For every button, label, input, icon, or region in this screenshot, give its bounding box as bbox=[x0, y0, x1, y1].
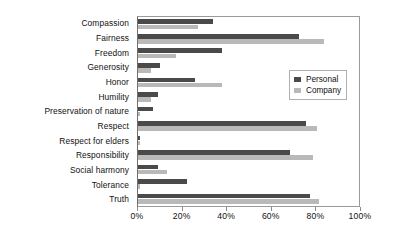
bar-personal bbox=[138, 150, 290, 155]
x-tick-label: 0% bbox=[131, 211, 144, 221]
bar-company bbox=[138, 170, 167, 175]
plot-area bbox=[137, 16, 360, 207]
category-label: Fairness bbox=[0, 31, 133, 46]
category-label: Social harmony bbox=[0, 163, 133, 178]
bar-company bbox=[138, 126, 317, 131]
bar-company bbox=[138, 141, 140, 146]
bar-group bbox=[138, 162, 359, 177]
bar-company bbox=[138, 199, 319, 204]
bar-personal bbox=[138, 63, 160, 68]
bar-group bbox=[138, 32, 359, 47]
bar-company bbox=[138, 97, 151, 102]
category-label: Tolerance bbox=[0, 178, 133, 193]
bar-personal bbox=[138, 19, 213, 24]
category-label: Generosity bbox=[0, 60, 133, 75]
legend-item-personal[interactable]: Personal bbox=[294, 74, 341, 85]
category-label: Honor bbox=[0, 75, 133, 90]
bar-group bbox=[138, 177, 359, 192]
x-tick-label: 40% bbox=[217, 211, 235, 221]
bar-company bbox=[138, 25, 198, 30]
bar-personal bbox=[138, 165, 158, 170]
category-axis: CompassionFairnessFreedomGenerosityHonor… bbox=[0, 16, 133, 207]
bar-company bbox=[138, 112, 140, 117]
bar-group bbox=[138, 46, 359, 61]
bar-company bbox=[138, 39, 324, 44]
bar-chart: CompassionFairnessFreedomGenerosityHonor… bbox=[0, 0, 395, 242]
x-tick-label: 100% bbox=[349, 211, 372, 221]
x-tick-label: 20% bbox=[173, 211, 191, 221]
legend-swatch-icon bbox=[294, 77, 301, 82]
category-label: Compassion bbox=[0, 16, 133, 31]
bar-company bbox=[138, 155, 313, 160]
category-label: Responsibility bbox=[0, 148, 133, 163]
bar-group bbox=[138, 104, 359, 119]
bar-company bbox=[138, 83, 222, 88]
x-tick-label: 60% bbox=[262, 211, 280, 221]
bar-personal bbox=[138, 92, 158, 97]
bar-company bbox=[138, 68, 151, 73]
bar-group bbox=[138, 119, 359, 134]
bar-personal bbox=[138, 34, 299, 39]
legend-item-company[interactable]: Company bbox=[294, 85, 341, 96]
bar-personal bbox=[138, 179, 187, 184]
bar-group bbox=[138, 133, 359, 148]
bar-group bbox=[138, 17, 359, 32]
bar-personal bbox=[138, 78, 195, 83]
bar-group bbox=[138, 148, 359, 163]
chart-legend: PersonalCompany bbox=[289, 70, 347, 100]
bar-company bbox=[138, 184, 140, 189]
x-tick-label: 80% bbox=[306, 211, 324, 221]
x-axis-labels: 0%20%40%60%80%100% bbox=[0, 211, 395, 227]
bar-personal bbox=[138, 107, 153, 112]
category-label: Preservation of nature bbox=[0, 104, 133, 119]
bar-company bbox=[138, 54, 176, 59]
bar-personal bbox=[138, 136, 140, 141]
category-label: Humility bbox=[0, 89, 133, 104]
legend-swatch-icon bbox=[294, 88, 301, 93]
bar-personal bbox=[138, 121, 306, 126]
legend-label: Company bbox=[306, 86, 341, 95]
bar-group bbox=[138, 191, 359, 206]
bar-personal bbox=[138, 194, 310, 199]
bar-personal bbox=[138, 48, 222, 53]
category-label: Truth bbox=[0, 192, 133, 207]
category-label: Respect bbox=[0, 119, 133, 134]
category-label: Respect for elders bbox=[0, 134, 133, 149]
category-label: Freedom bbox=[0, 45, 133, 60]
legend-label: Personal bbox=[306, 75, 338, 84]
bars-layer bbox=[138, 17, 359, 206]
